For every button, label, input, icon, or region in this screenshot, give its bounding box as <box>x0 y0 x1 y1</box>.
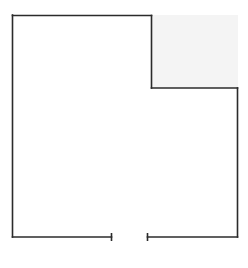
exterior-cutout-area <box>151 15 238 88</box>
floor-plan <box>0 0 248 268</box>
entrance-door-opening <box>112 233 148 241</box>
